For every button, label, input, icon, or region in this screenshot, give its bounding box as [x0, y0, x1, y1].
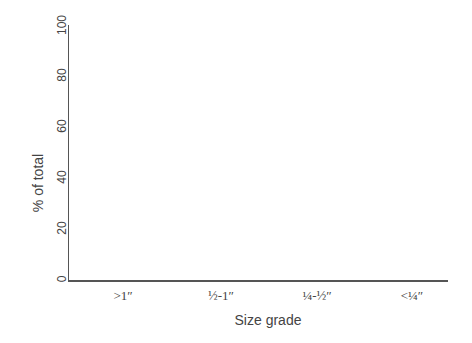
chart: 0 20 40 60 80 100 >1″ ½-1″ ¼-½″ <¼″ % of… [0, 0, 472, 343]
y-tick-60: 60 [55, 111, 69, 141]
y-tick-80: 80 [55, 60, 69, 90]
x-tick-gt1: >1″ [83, 288, 163, 304]
x-tick-lt-quarter: <¼″ [372, 288, 452, 304]
y-axis-label: % of total [30, 133, 46, 233]
y-tick-100: 100 [55, 10, 69, 40]
x-axis-line [68, 280, 448, 282]
y-tick-20: 20 [55, 213, 69, 243]
x-axis-label: Size grade [208, 312, 328, 328]
x-tick-half-1: ½-1″ [181, 288, 261, 304]
y-tick-0: 0 [55, 264, 69, 294]
x-tick-quarter-half: ¼-½″ [277, 288, 357, 304]
y-tick-40: 40 [55, 162, 69, 192]
